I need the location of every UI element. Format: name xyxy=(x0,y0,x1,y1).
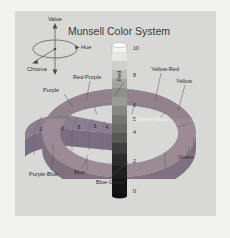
page-title: Munsell Color System xyxy=(68,25,170,37)
value-step-1 xyxy=(112,166,127,179)
hue-label-yellow-red: Yellow-Red xyxy=(151,66,179,72)
hue-label-blue-green: Blue-Green xyxy=(96,179,125,185)
value-step-5b xyxy=(112,88,127,97)
value-axis-cylinder-upper xyxy=(112,42,127,124)
chroma-tick-8: 8 xyxy=(78,124,81,130)
hue-label-purple: Purple xyxy=(43,87,59,93)
value-step-2 xyxy=(112,154,127,166)
chroma-tick-6: 6 xyxy=(94,123,97,129)
value-step-3 xyxy=(112,143,127,154)
munsell-diagram-svg: Munsell Color System Value Hue Chroma xyxy=(15,11,216,216)
legend-chroma-origin-dot xyxy=(54,48,57,51)
value-tick-8: 8 xyxy=(133,72,136,78)
legend-hue-label: Hue xyxy=(81,44,91,50)
legend-value-label: Value xyxy=(48,16,62,22)
value-step-4 xyxy=(112,124,127,133)
value-tick-2: 2 xyxy=(133,158,136,164)
value-step-5c xyxy=(112,97,127,106)
hue-label-red: Red xyxy=(116,71,122,81)
hue-label-green-yellow: Green-Yellow xyxy=(135,116,169,122)
value-tick-10: 10 xyxy=(133,45,139,51)
value-step-3b xyxy=(112,133,127,143)
chroma-tick-4: 4 xyxy=(106,124,109,130)
legend-chroma-label: Chroma xyxy=(27,66,48,72)
value-cylinder-cap xyxy=(112,42,127,47)
hue-label-purple-blue: Purple-Blue xyxy=(29,171,58,177)
value-tick-0: 0 xyxy=(133,188,136,194)
value-step-5d xyxy=(112,106,127,115)
hue-label-yellow: Yellow xyxy=(176,78,193,84)
value-step-4b xyxy=(112,115,127,124)
value-cylinder-base xyxy=(112,194,127,199)
value-axis-cylinder-lower xyxy=(112,124,127,198)
value-step-8 xyxy=(112,61,127,70)
value-tick-4: 4 xyxy=(133,129,136,135)
hue-label-blue: Blue xyxy=(74,169,85,175)
hue-label-red-purple: Red-Purple xyxy=(73,74,101,80)
munsell-diagram-panel: Munsell Color System Value Hue Chroma xyxy=(15,11,216,216)
value-tick-6: 6 xyxy=(133,102,136,108)
hue-label-green: Green xyxy=(178,154,194,160)
value-step-9 xyxy=(112,53,127,61)
